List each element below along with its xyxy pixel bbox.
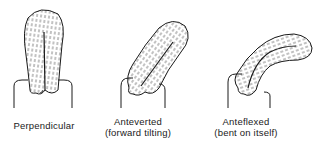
anteverted-label: Anteverted (forward tilting) (96, 116, 180, 138)
anteverted-label-line1: Anteverted (96, 116, 180, 127)
perpendicular-label: Perpendicular (4, 120, 84, 131)
perpendicular-label-line1: Perpendicular (4, 120, 84, 131)
anteflexed-uterus-illustration (222, 0, 322, 110)
anteflexed-label-line1: Anteflexed (204, 116, 288, 127)
anteflexed-label: Anteflexed (bent on itself) (204, 116, 288, 138)
perpendicular-uterus-illustration (10, 0, 80, 110)
anteverted-label-line2: (forward tilting) (96, 127, 180, 138)
anteflexed-label-line2: (bent on itself) (204, 127, 288, 138)
anteverted-uterus-illustration (115, 0, 195, 110)
